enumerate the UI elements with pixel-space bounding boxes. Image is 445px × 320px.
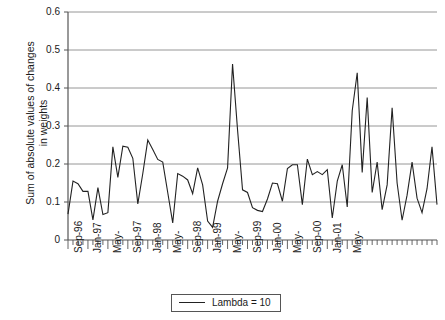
legend-label: Lambda = 10 [212, 297, 271, 308]
data-series-line [68, 64, 437, 227]
gridlines [68, 12, 437, 202]
chart-container: Sum of absolute values of changes in wei… [0, 0, 445, 320]
plot-area [0, 0, 445, 320]
x-axis-ticks [68, 240, 437, 249]
legend-line-swatch [179, 302, 205, 303]
legend: Lambda = 10 [171, 294, 281, 312]
